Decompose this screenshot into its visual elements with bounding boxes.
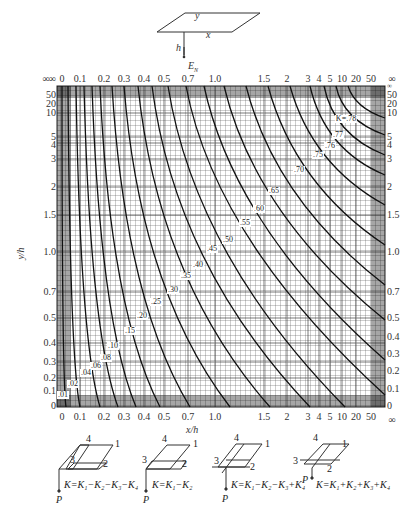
bottom-x-tick: 0	[60, 412, 65, 422]
contour-label: .76	[324, 142, 336, 150]
contour-label: .60	[253, 205, 265, 213]
left-y-tick: 0	[51, 401, 56, 411]
diagram4-load: P	[302, 474, 308, 485]
left-y-tick: 0.7	[44, 287, 57, 297]
right-y-tick: 10	[387, 108, 397, 118]
contour-label: .75	[312, 151, 324, 159]
diagram2-load: P	[143, 494, 149, 505]
left-y-tick: 1.0	[44, 247, 57, 257]
diagram2-corner-4: 4	[162, 433, 167, 444]
bottom-x-tick: 0.2	[98, 412, 111, 422]
diagram1-corner-2: 2	[103, 458, 108, 469]
right-y-tick: 0.7	[387, 287, 400, 297]
left-y-tick: 10	[46, 108, 56, 118]
diagram2-corner-2: 2	[182, 458, 187, 469]
contour-label: .20	[136, 312, 148, 320]
bottom-x-tick: 4	[317, 412, 322, 422]
right-y-tick: 1.0	[387, 247, 400, 257]
contour-label: .30	[167, 286, 179, 294]
contour-label: .25	[150, 298, 162, 306]
right-y-tick: 0.5	[387, 313, 400, 323]
right-y-tick: 2	[387, 182, 392, 192]
diagram2-corner-3: 3	[142, 454, 147, 465]
bottom-x-tick: 20	[351, 412, 361, 422]
diagram1-corner-1: 1	[115, 438, 120, 449]
diagram1-load: P	[56, 494, 62, 505]
left-y-tick: 0.5	[44, 313, 57, 323]
left-y-tick: 0.4	[44, 338, 57, 348]
bottom-x-tick: 0.5	[158, 412, 171, 422]
right-y-tick: 4	[387, 140, 392, 150]
contour-label: .10	[107, 342, 119, 350]
y-axis-title: y/h	[15, 247, 26, 259]
left-y-infinity: ∞	[49, 74, 56, 84]
contour-label: .04	[80, 369, 92, 377]
bottom-x-tick: 0.1	[74, 412, 87, 422]
figure-caption-faint	[0, 510, 409, 519]
contour-label: .45	[206, 245, 218, 253]
left-y-tick: 1.5	[44, 210, 57, 220]
diagram4-corner-3: 3	[293, 455, 298, 466]
diagram4-corner-1: 1	[342, 438, 347, 449]
right-y-tick: 0	[387, 401, 392, 411]
bottom-x-tick: 3	[306, 412, 311, 422]
bottom-diagrams: 4 1 3 2 K=K₁−K₂−K₃−K₄ P 4 1 3 2 K=K₁−K₂ …	[0, 430, 409, 510]
left-y-tick: 4	[51, 140, 56, 150]
right-y-tick: 0.4	[387, 332, 400, 342]
diagram3-load: P	[222, 493, 228, 504]
bottom-x-tick: 10	[337, 412, 347, 422]
bottom-x-tick: 0.7	[182, 412, 195, 422]
left-y-tick: 0.1	[44, 386, 57, 396]
diagram3-corner-1: 1	[265, 438, 270, 449]
left-y-tick: 0.3	[44, 357, 57, 367]
diagram4-formula: K=K₁+K₂+K₃+K₄	[316, 479, 390, 490]
contour-label: .08	[100, 354, 112, 362]
bottom-x-infinity: ∞	[388, 415, 395, 425]
bottom-x-tick: 0.4	[138, 412, 151, 422]
contour-label: .50	[222, 236, 234, 244]
diagram1-formula: K=K₁−K₂−K₃−K₄	[64, 479, 138, 490]
bottom-x-tick: 1.5	[258, 412, 271, 422]
contour-label: .65	[268, 187, 280, 195]
contour-label: .70	[293, 166, 305, 174]
bottom-x-tick: 1.0	[209, 412, 222, 422]
right-y-tick: 0.1	[387, 384, 400, 394]
left-y-tick: 2	[51, 182, 56, 192]
right-y-tick: 1.5	[387, 210, 400, 220]
diagram2-corner-1: 1	[193, 438, 198, 449]
bottom-x-tick: 0.3	[118, 412, 131, 422]
diagram3-formula: K=K₁−K₂−K₃+K₄	[231, 479, 305, 490]
diagram4-corner-4: 4	[313, 432, 318, 443]
bottom-x-tick: 2	[285, 412, 290, 422]
contour-label: .15	[124, 327, 136, 335]
contour-label: K=.78	[335, 115, 357, 123]
diagram3-corner-2: 2	[250, 461, 255, 472]
contour-label: .77	[332, 131, 344, 139]
diagram2-formula: K=K₁−K₂	[152, 479, 192, 490]
bottom-x-tick: 50	[366, 412, 376, 422]
contour-label: .01	[57, 391, 69, 399]
left-y-tick: 0.2	[44, 373, 57, 383]
right-y-tick: 0.3	[387, 349, 400, 359]
diagram3-corner-4: 4	[234, 432, 239, 443]
left-y-tick: 3	[51, 154, 56, 164]
diagram1-corner-4: 4	[86, 433, 91, 444]
diagram1-corner-3: 3	[70, 454, 75, 465]
diagram3-corner-3: 3	[214, 455, 219, 466]
right-y-tick: 3	[387, 154, 392, 164]
contour-label: .40	[192, 261, 204, 269]
right-y-tick: 0.2	[387, 366, 400, 376]
diagram4-corner-2: 2	[327, 463, 332, 474]
contour-label: .35	[180, 272, 192, 280]
contour-label: .02	[67, 380, 79, 388]
contour-label: .55	[239, 219, 251, 227]
bottom-x-tick: 5	[328, 412, 333, 422]
